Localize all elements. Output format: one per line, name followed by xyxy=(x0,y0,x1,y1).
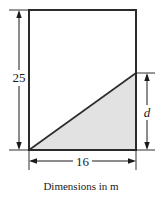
diagram-canvas: 25 d 16 Dimensions in m xyxy=(0,0,162,199)
width-arrowhead-right xyxy=(128,158,136,163)
depth-dimension-label: d xyxy=(144,105,151,120)
depth-arrowhead-top xyxy=(144,73,149,81)
engineering-diagram-figure: 25 d 16 Dimensions in m xyxy=(0,0,162,199)
width-dimension-label: 16 xyxy=(76,154,90,169)
figure-caption: Dimensions in m xyxy=(43,180,119,192)
depth-arrowhead-bottom xyxy=(144,142,149,150)
height-arrowhead-top xyxy=(16,10,21,18)
width-arrowhead-left xyxy=(29,158,37,163)
height-dimension-label: 25 xyxy=(13,70,26,85)
height-arrowhead-bottom xyxy=(16,142,21,150)
